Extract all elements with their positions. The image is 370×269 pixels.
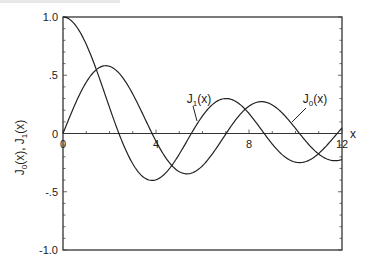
y-tick-label: 0 [52,128,58,140]
curve-annotations: J1(x)J0(x) [187,92,327,122]
label-part: (x) [13,120,27,134]
curve-j1 [63,66,342,174]
label-tail: (x) [197,92,211,106]
y-tick-label: -1.0 [39,244,58,256]
leader-line-j1 [193,106,197,121]
x-tick-label: 8 [246,138,252,150]
leader-line-j0 [292,108,306,122]
y-tick-label: -.5 [45,186,58,198]
label-j1: J1(x) [187,92,211,108]
y-axis-title: J0(x), J1(x) [13,120,29,176]
y-tick-label: .5 [49,69,58,81]
bessel-function-chart: 1.0.50-.5-1.004812xJ0(x), J1(x) J1(x)J0(… [0,0,370,269]
x-axis-title: x [350,127,356,141]
x-tick-label: 12 [336,138,348,150]
x-tick-label: 0 [60,138,66,150]
label-part: (x), J [13,138,27,165]
y-tick-label: 1.0 [43,11,58,23]
label-tail: (x) [313,92,327,106]
label-j0: J0(x) [303,92,327,108]
x-tick-label: 4 [153,138,159,150]
